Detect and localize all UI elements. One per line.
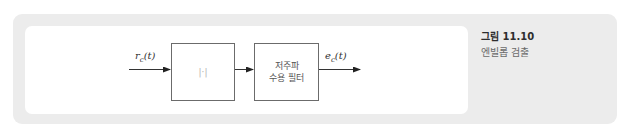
abs-symbol: |·| (199, 67, 208, 77)
absolute-value-block: |·| (171, 43, 235, 101)
input-signal-label: rc(t) (135, 50, 156, 64)
figure-number: 그림 11.10 (481, 28, 534, 43)
lowpass-filter-block: 저주파 수용 필터 (254, 43, 319, 101)
lpf-label-line2: 수용 필터 (269, 72, 304, 84)
figure-caption: 엔빌롭 검출 (481, 44, 529, 59)
lpf-label-line1: 저주파 (269, 60, 304, 72)
output-signal-label: ec(t) (325, 50, 347, 64)
